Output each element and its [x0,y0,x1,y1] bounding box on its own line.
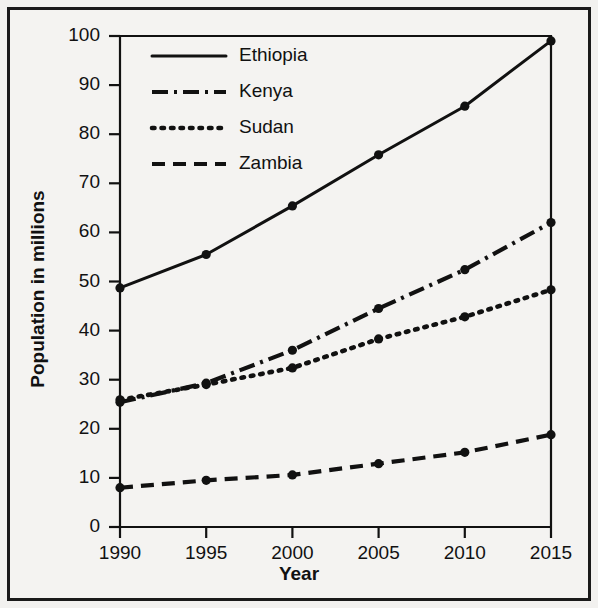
x-axis-title: Year [0,563,598,585]
series-lines [120,41,551,488]
data-point-marker [202,380,211,389]
data-point-marker [546,285,555,294]
data-point-marker [460,448,469,457]
y-tick-label: 80 [40,122,100,144]
figure-container: Population in millions Year 010203040506… [0,0,598,608]
x-axis-ticks [120,527,551,538]
y-tick-label: 0 [40,515,100,537]
data-point-marker [374,150,383,159]
data-point-marker [115,483,124,492]
data-point-marker [374,304,383,313]
data-point-marker [202,250,211,259]
legend-label-ethiopia: Ethiopia [239,44,308,66]
data-point-marker [460,265,469,274]
legend-label-zambia: Zambia [239,152,302,174]
x-tick-label: 2015 [511,542,591,564]
legend-label-sudan: Sudan [239,116,294,138]
legend-swatches [152,56,226,164]
data-point-marker [546,36,555,45]
data-point-marker [288,201,297,210]
series-line-sudan [120,290,551,400]
data-point-marker [460,102,469,111]
y-tick-label: 20 [40,417,100,439]
data-point-marker [374,334,383,343]
data-point-marker [374,459,383,468]
data-point-marker [202,476,211,485]
y-tick-label: 40 [40,319,100,341]
y-tick-label: 90 [40,73,100,95]
x-tick-label: 1990 [80,542,160,564]
x-tick-label: 2005 [339,542,419,564]
y-tick-label: 70 [40,171,100,193]
y-tick-label: 50 [40,270,100,292]
data-point-marker [115,283,124,292]
data-point-marker [546,218,555,227]
data-point-marker [460,312,469,321]
y-tick-label: 60 [40,220,100,242]
data-point-marker [546,430,555,439]
y-tick-label: 10 [40,466,100,488]
series-line-zambia [120,435,551,488]
data-point-marker [288,470,297,479]
series-line-kenya [120,223,551,403]
y-axis-ticks [109,36,120,527]
data-point-marker [115,395,124,404]
y-tick-label: 100 [40,24,100,46]
x-tick-label: 1995 [166,542,246,564]
x-tick-label: 2010 [425,542,505,564]
data-point-marker [288,363,297,372]
x-tick-label: 2000 [252,542,332,564]
plot-frame [120,36,551,527]
data-point-marker [288,346,297,355]
y-tick-label: 30 [40,368,100,390]
legend-label-kenya: Kenya [239,80,293,102]
